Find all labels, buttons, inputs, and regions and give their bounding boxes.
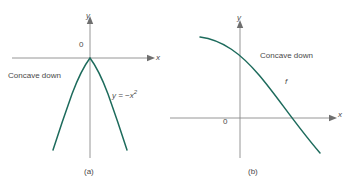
panel-a: y x 0 Concave down y = −x2 (a) bbox=[0, 0, 175, 187]
origin-label: 0 bbox=[79, 41, 83, 49]
equation-base: y = −x bbox=[112, 91, 134, 100]
equation-label: y = −x2 bbox=[112, 92, 137, 100]
function-name-label: f bbox=[285, 78, 287, 86]
x-axis-label: x bbox=[338, 111, 342, 119]
origin-label: 0 bbox=[223, 118, 227, 126]
panel-caption: (b) bbox=[248, 168, 258, 176]
concavity-annotation: Concave down bbox=[260, 52, 313, 60]
y-axis-label: y bbox=[237, 14, 241, 22]
x-axis-label: x bbox=[156, 54, 160, 62]
panel-b: y x 0 Concave down f (b) bbox=[175, 0, 350, 187]
figure-root: y x 0 Concave down y = −x2 (a) y x 0 Con… bbox=[0, 0, 350, 187]
x-axis-arrowhead bbox=[147, 55, 155, 61]
concavity-annotation: Concave down bbox=[8, 72, 61, 80]
y-axis-label: y bbox=[86, 12, 90, 20]
equation-exponent: 2 bbox=[134, 89, 137, 95]
panel-a-graph bbox=[0, 0, 175, 187]
x-axis-arrowhead bbox=[329, 115, 337, 121]
panel-b-graph bbox=[175, 0, 350, 187]
panel-caption: (a) bbox=[84, 168, 94, 176]
